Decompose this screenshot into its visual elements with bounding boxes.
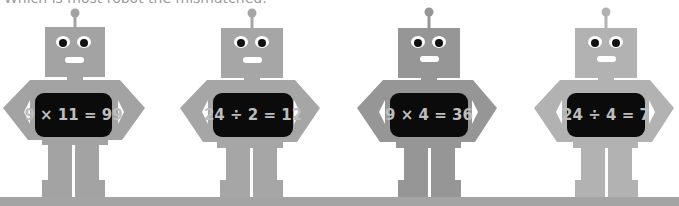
robot-1[interactable]: 9 × 11 = 99 [0,0,170,206]
equation-screen: 9 × 11 = 99 [35,93,112,137]
robot-2[interactable]: 24 ÷ 2 = 12 [170,0,340,206]
equation-screen: 24 ÷ 4 = 7 [567,93,645,137]
ground-line [0,197,679,206]
robot-3[interactable]: 9 × 4 = 36 [340,0,510,206]
equation-screen: 24 ÷ 2 = 12 [213,93,293,137]
robot-4[interactable]: 24 ÷ 4 = 7 [509,0,679,206]
equation-screen: 9 × 4 = 36 [390,93,468,137]
